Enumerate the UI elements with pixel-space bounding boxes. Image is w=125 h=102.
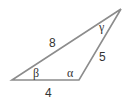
side-label-4: 4 [45, 86, 52, 100]
side-label-8: 8 [49, 36, 56, 50]
angle-label-alpha: α [67, 66, 74, 80]
angle-label-beta: β [33, 66, 39, 80]
side-label-5: 5 [99, 50, 106, 64]
angle-label-gamma: γ [98, 20, 105, 34]
triangle-diagram: 8 5 4 β α γ [0, 0, 125, 102]
